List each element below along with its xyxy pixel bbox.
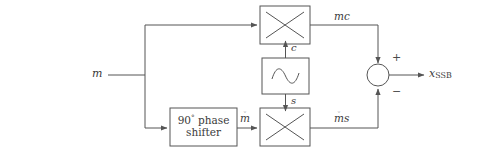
carrier-sin-label: s — [291, 96, 296, 106]
degree-symbol: ° — [191, 113, 195, 122]
bottom-product-hat-mark: ◦ — [337, 109, 341, 116]
hilbert-signal-label: ◦m — [240, 113, 250, 124]
phase-shifter-line2: shifter — [186, 126, 221, 138]
hilbert-hat-mark: ◦ — [243, 109, 247, 116]
carrier-cos-label: c — [291, 43, 297, 53]
bottom-product-tail: s — [344, 112, 349, 124]
output-subscript: SSB — [435, 71, 452, 80]
summer-plus-sign: + — [392, 52, 401, 63]
phase-shifter-line1: 90° phase — [178, 114, 230, 126]
input-label: m — [92, 68, 102, 79]
summing-junction — [367, 64, 389, 86]
wire-layer — [0, 0, 478, 151]
ssb-modulator-diagram: m 90° phase shifter ◦m c s mc ◦ms + − xS… — [0, 0, 478, 151]
phase-shifter-number: 90 — [178, 114, 191, 126]
phase-shifter-label: 90° phase shifter — [170, 114, 237, 138]
summer-minus-sign: − — [392, 86, 401, 97]
bottom-product-m-wrap: ◦m — [334, 113, 344, 124]
hilbert-m-wrap: ◦m — [240, 113, 250, 124]
output-label: xSSB — [429, 68, 452, 80]
bottom-product-label: ◦ms — [334, 113, 349, 124]
sine-wave-icon — [272, 69, 299, 83]
top-product-label: mc — [334, 11, 350, 22]
phase-shifter-word: phase — [198, 114, 229, 126]
